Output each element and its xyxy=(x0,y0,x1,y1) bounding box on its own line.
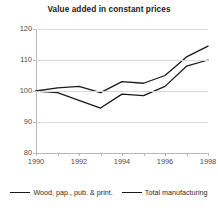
series-line-1 xyxy=(36,60,208,108)
legend-line-swatch-1 xyxy=(122,192,142,193)
series-line-0 xyxy=(36,46,208,93)
x-axis-labels: 19901992199419961998 xyxy=(36,157,208,171)
y-tick-mark-110 xyxy=(33,60,36,61)
x-tick-mark-1991 xyxy=(58,153,59,156)
legend-line-swatch-0 xyxy=(10,192,30,193)
y-tick-mark-90 xyxy=(33,122,36,123)
x-tick-label-1990: 1990 xyxy=(21,157,51,166)
plot-area xyxy=(36,29,208,153)
y-tick-mark-120 xyxy=(33,29,36,30)
y-tick-label-90: 90 xyxy=(6,117,32,126)
chart-title: Value added in constant prices xyxy=(0,5,218,14)
gridline-y-90 xyxy=(36,122,208,123)
gridline-y-120 xyxy=(36,29,208,30)
x-tick-mark-1995 xyxy=(144,153,145,156)
legend-label-1: Total manufacturing xyxy=(145,188,208,197)
y-axis-labels: 8090100110120 xyxy=(4,0,32,211)
y-tick-label-100: 100 xyxy=(6,86,32,95)
x-tick-label-1998: 1998 xyxy=(193,157,218,166)
x-tick-mark-1994 xyxy=(122,153,123,156)
x-tick-label-1992: 1992 xyxy=(64,157,94,166)
x-tick-mark-1996 xyxy=(165,153,166,156)
y-tick-label-80: 80 xyxy=(6,148,32,157)
y-tick-mark-100 xyxy=(33,91,36,92)
y-tick-label-120: 120 xyxy=(6,24,32,33)
legend-item-1[interactable]: Total manufacturing xyxy=(122,188,208,197)
x-tick-mark-1992 xyxy=(79,153,80,156)
chart-container: Value added in constant prices 809010011… xyxy=(0,0,218,211)
x-tick-label-1994: 1994 xyxy=(107,157,137,166)
gridline-y-110 xyxy=(36,60,208,61)
y-tick-label-110: 110 xyxy=(6,55,32,64)
x-tick-label-1996: 1996 xyxy=(150,157,180,166)
legend-item-0[interactable]: Wood, pap., pub. & print. xyxy=(10,188,112,197)
x-tick-mark-1997 xyxy=(187,153,188,156)
legend-label-0: Wood, pap., pub. & print. xyxy=(33,188,112,197)
x-tick-mark-1990 xyxy=(36,153,37,156)
gridline-y-100 xyxy=(36,91,208,92)
x-tick-mark-1998 xyxy=(208,153,209,156)
chart-legend: Wood, pap., pub. & print. Total manufact… xyxy=(0,188,218,197)
x-tick-mark-1993 xyxy=(101,153,102,156)
